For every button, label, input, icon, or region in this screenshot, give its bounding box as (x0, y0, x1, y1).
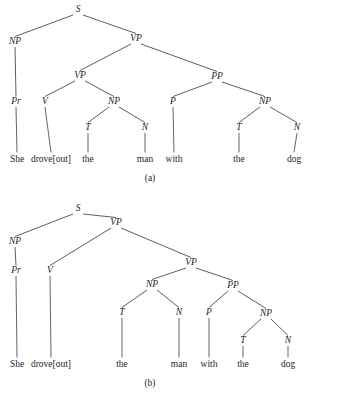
tree-node-v: V (42, 96, 49, 106)
tree-edge (15, 15, 73, 37)
tree-edge (271, 319, 288, 336)
tree-node-p: P (169, 96, 176, 106)
tree-node-np: NP (258, 96, 271, 106)
tree-edge (15, 47, 16, 97)
tree-node-n: N (175, 307, 183, 317)
tree-edge (88, 107, 109, 123)
tree-node-vp: VP (185, 257, 197, 267)
tree-caption: (a) (145, 173, 156, 184)
tree-diagram-b: SNPVPPrVVPNPPPTNPNPTNShedrove[out]theman… (0, 195, 345, 401)
tree-node-vp: VP (110, 217, 122, 227)
tree-edge (173, 82, 212, 97)
tree-node-np: NP (259, 308, 272, 318)
tree-caption: (b) (144, 378, 155, 389)
leaf-stem (294, 133, 297, 153)
tree-node-np: NP (8, 36, 21, 46)
tree-edge (196, 268, 233, 281)
tree-node-t: T (85, 122, 91, 132)
tree-edge (50, 228, 111, 266)
tree-node-s: S (76, 4, 81, 14)
leaf-word: with (201, 359, 218, 369)
tree-node-pr: Pr (10, 265, 21, 275)
tree-node-t: T (236, 122, 242, 132)
leaf-stem (50, 276, 51, 358)
tree-node-v: V (47, 265, 54, 275)
tree-node-n: N (284, 335, 292, 345)
tree-node-t: T (240, 335, 246, 345)
leaf-word: She (10, 154, 24, 164)
leaf-word: the (237, 359, 249, 369)
tree-node-t: T (119, 307, 125, 317)
tree-node-p: P (205, 307, 212, 317)
leaf-word: the (82, 154, 94, 164)
tree-node-n: N (141, 122, 149, 132)
tree-edge (209, 291, 228, 308)
tree-edge (119, 107, 145, 123)
tree-edge (239, 107, 260, 123)
leaf-word: drove[out] (31, 154, 71, 164)
tree-edge (141, 44, 217, 72)
tree-node-vp: VP (74, 70, 86, 80)
tree-edge (45, 81, 75, 97)
leaf-stem (16, 276, 17, 358)
tree-node-n: N (293, 122, 301, 132)
tree-edge (243, 319, 261, 336)
tree-node-np: NP (145, 279, 158, 289)
leaf-stem (45, 107, 51, 153)
syntax-tree-figure: SNPVPPrVPPPVNPPNPTNTNShedrove[out]theman… (0, 0, 345, 401)
leaf-word: the (116, 359, 128, 369)
tree-node-s: S (76, 203, 81, 213)
leaf-word: man (137, 154, 154, 164)
tree-edge (121, 228, 191, 258)
tree-edge (238, 291, 266, 309)
leaf-word: man (171, 359, 188, 369)
tree-edge (83, 15, 136, 34)
tree-diagram-a: SNPVPPrVPPPVNPPNPTNTNShedrove[out]theman… (0, 0, 345, 195)
leaf-word: with (166, 154, 183, 164)
tree-edge (15, 247, 16, 266)
leaf-word: dog (281, 359, 296, 369)
tree-edge (85, 81, 114, 97)
tree-node-pp: PP (210, 71, 223, 81)
tree-edge (122, 290, 147, 308)
tree-edge (152, 268, 186, 280)
leaf-word: She (10, 359, 24, 369)
leaf-stem (16, 107, 17, 153)
tree-edge (80, 44, 131, 71)
tree-edge (157, 290, 179, 308)
tree-node-np: NP (8, 236, 21, 246)
tree-edge (270, 107, 297, 123)
leaf-word: dog (287, 154, 302, 164)
tree-edge (222, 82, 265, 97)
leaf-word: the (233, 154, 245, 164)
tree-edge (15, 214, 73, 237)
leaf-word: drove[out] (31, 359, 71, 369)
tree-node-vp: VP (130, 33, 142, 43)
tree-node-np: NP (107, 96, 120, 106)
tree-node-pp: PP (226, 280, 239, 290)
tree-node-pr: Pr (10, 96, 21, 106)
leaf-stem (173, 107, 174, 153)
